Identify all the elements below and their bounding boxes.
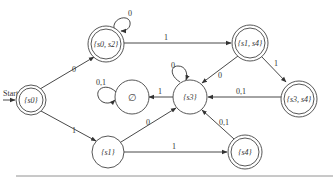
transition-s0-to-s1: 1 xyxy=(41,111,96,141)
svg-text:{s0, s2}: {s0, s2} xyxy=(94,40,119,49)
svg-text:{s4}: {s4} xyxy=(238,148,252,157)
svg-text:{s1, s4}: {s1, s4} xyxy=(238,39,263,48)
svg-text:0: 0 xyxy=(128,9,132,18)
transition-s0-to-s0s2: 0 xyxy=(40,57,94,89)
svg-text:{s0}: {s0} xyxy=(24,96,38,105)
transition-s0s2-to-s1s4: 1 xyxy=(124,33,231,43)
svg-text:0: 0 xyxy=(171,61,175,70)
state-s0: {s0} xyxy=(16,85,46,115)
svg-text:0: 0 xyxy=(146,118,150,127)
svg-text:1: 1 xyxy=(164,33,168,42)
transition-s0s2-loop: 0 xyxy=(114,9,132,31)
transition-s1s4-to-s3s4: 1 xyxy=(261,56,286,82)
state-s4: {s4} xyxy=(228,135,262,169)
transition-s1s4-to-s3: 0 xyxy=(202,56,238,83)
svg-text:0,1: 0,1 xyxy=(236,87,246,96)
svg-text:1: 1 xyxy=(274,59,278,68)
state-s1: {s1} xyxy=(92,136,124,168)
svg-text:{s3, s4}: {s3, s4} xyxy=(287,95,312,104)
transition-s4-to-s3: 0,1 xyxy=(202,110,234,139)
svg-text:{s3}: {s3} xyxy=(183,93,197,102)
state-s1-s4: {s1, s4} xyxy=(232,25,268,61)
empty-set-icon: ∅ xyxy=(128,92,137,103)
svg-text:0,1: 0,1 xyxy=(219,118,229,127)
svg-text:{s1}: {s1} xyxy=(101,148,115,157)
automaton-diagram: Start 0 1 0 1 0 1 0,1 0 1 0,1 0 xyxy=(0,0,333,185)
transition-s3-to-empty: 1 xyxy=(149,87,173,97)
svg-text:1: 1 xyxy=(72,126,76,135)
svg-text:1: 1 xyxy=(172,142,176,151)
state-s0-s2: {s0, s2} xyxy=(88,26,124,62)
svg-text:0: 0 xyxy=(218,71,222,80)
transition-empty-loop: 0,1 xyxy=(96,78,116,103)
state-empty-set: ∅ xyxy=(115,80,149,114)
transition-s1-to-s4: 1 xyxy=(124,142,227,152)
transition-s3-loop: 0 xyxy=(171,61,187,82)
svg-text:0: 0 xyxy=(72,65,76,74)
state-s3-s4: {s3, s4} xyxy=(281,81,317,117)
state-s3: {s3} xyxy=(173,80,207,114)
transition-s3s4-to-s3: 0,1 xyxy=(208,87,281,97)
svg-text:1: 1 xyxy=(158,87,162,96)
svg-text:0,1: 0,1 xyxy=(96,78,106,87)
